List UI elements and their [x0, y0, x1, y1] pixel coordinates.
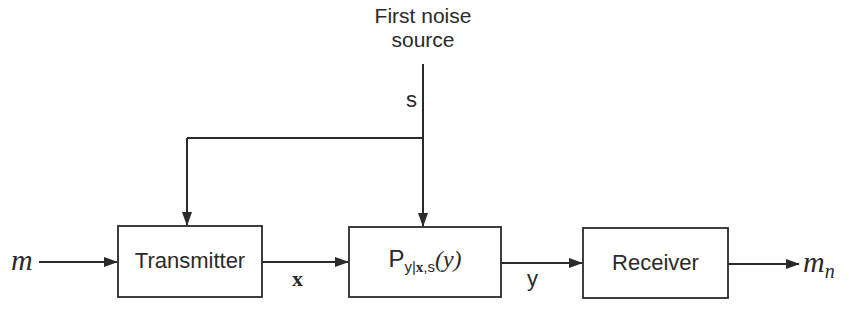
channel-label-arg: (y) — [435, 246, 462, 272]
signal-y-label: y — [527, 266, 538, 292]
noise-source-line1: First noise — [353, 4, 493, 28]
input-m-label: m — [11, 243, 33, 277]
noise-source-label: First noise source — [353, 4, 493, 52]
signal-s-label: s — [406, 87, 417, 113]
signal-x-label: x — [292, 266, 303, 292]
output-m: m — [803, 245, 825, 278]
channel-label-p: P — [388, 245, 404, 272]
channel-label: Py|x,s(y) — [349, 245, 501, 276]
transmitter-label: Transmitter — [118, 248, 262, 274]
channel-sub-y: y| — [404, 258, 415, 275]
receiver-label: Receiver — [583, 250, 728, 276]
output-mn-label: mn — [803, 245, 835, 283]
noise-source-line2: source — [353, 28, 493, 52]
channel-sub-s: s — [427, 258, 435, 275]
output-sub-n: n — [825, 260, 835, 282]
